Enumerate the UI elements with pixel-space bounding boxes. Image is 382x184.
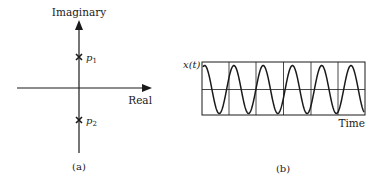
signal-axis-label-text: x(t): [183, 59, 201, 70]
pole-p1-subscript: 1: [92, 57, 96, 65]
panel-a: Imaginary Real p1 p2 (a): [17, 6, 153, 172]
figure: Imaginary Real p1 p2 (a) x(t: [0, 0, 382, 184]
svg-text:p2: p2: [86, 115, 97, 128]
caption-b: (b): [276, 163, 290, 174]
caption-a: (a): [72, 161, 86, 172]
real-axis-label: Real: [128, 94, 152, 106]
real-axis-arrow-icon: [142, 84, 152, 92]
panel-b: x(t) Time (b): [183, 59, 365, 174]
imaginary-axis-label: Imaginary: [52, 6, 106, 18]
time-axis-label: Time: [338, 117, 365, 129]
pole-p2-subscript: 2: [92, 120, 96, 128]
svg-text:p1: p1: [86, 52, 97, 65]
signal-axis-label: x(t): [183, 59, 201, 70]
imaginary-axis-arrow-icon: [75, 20, 83, 30]
